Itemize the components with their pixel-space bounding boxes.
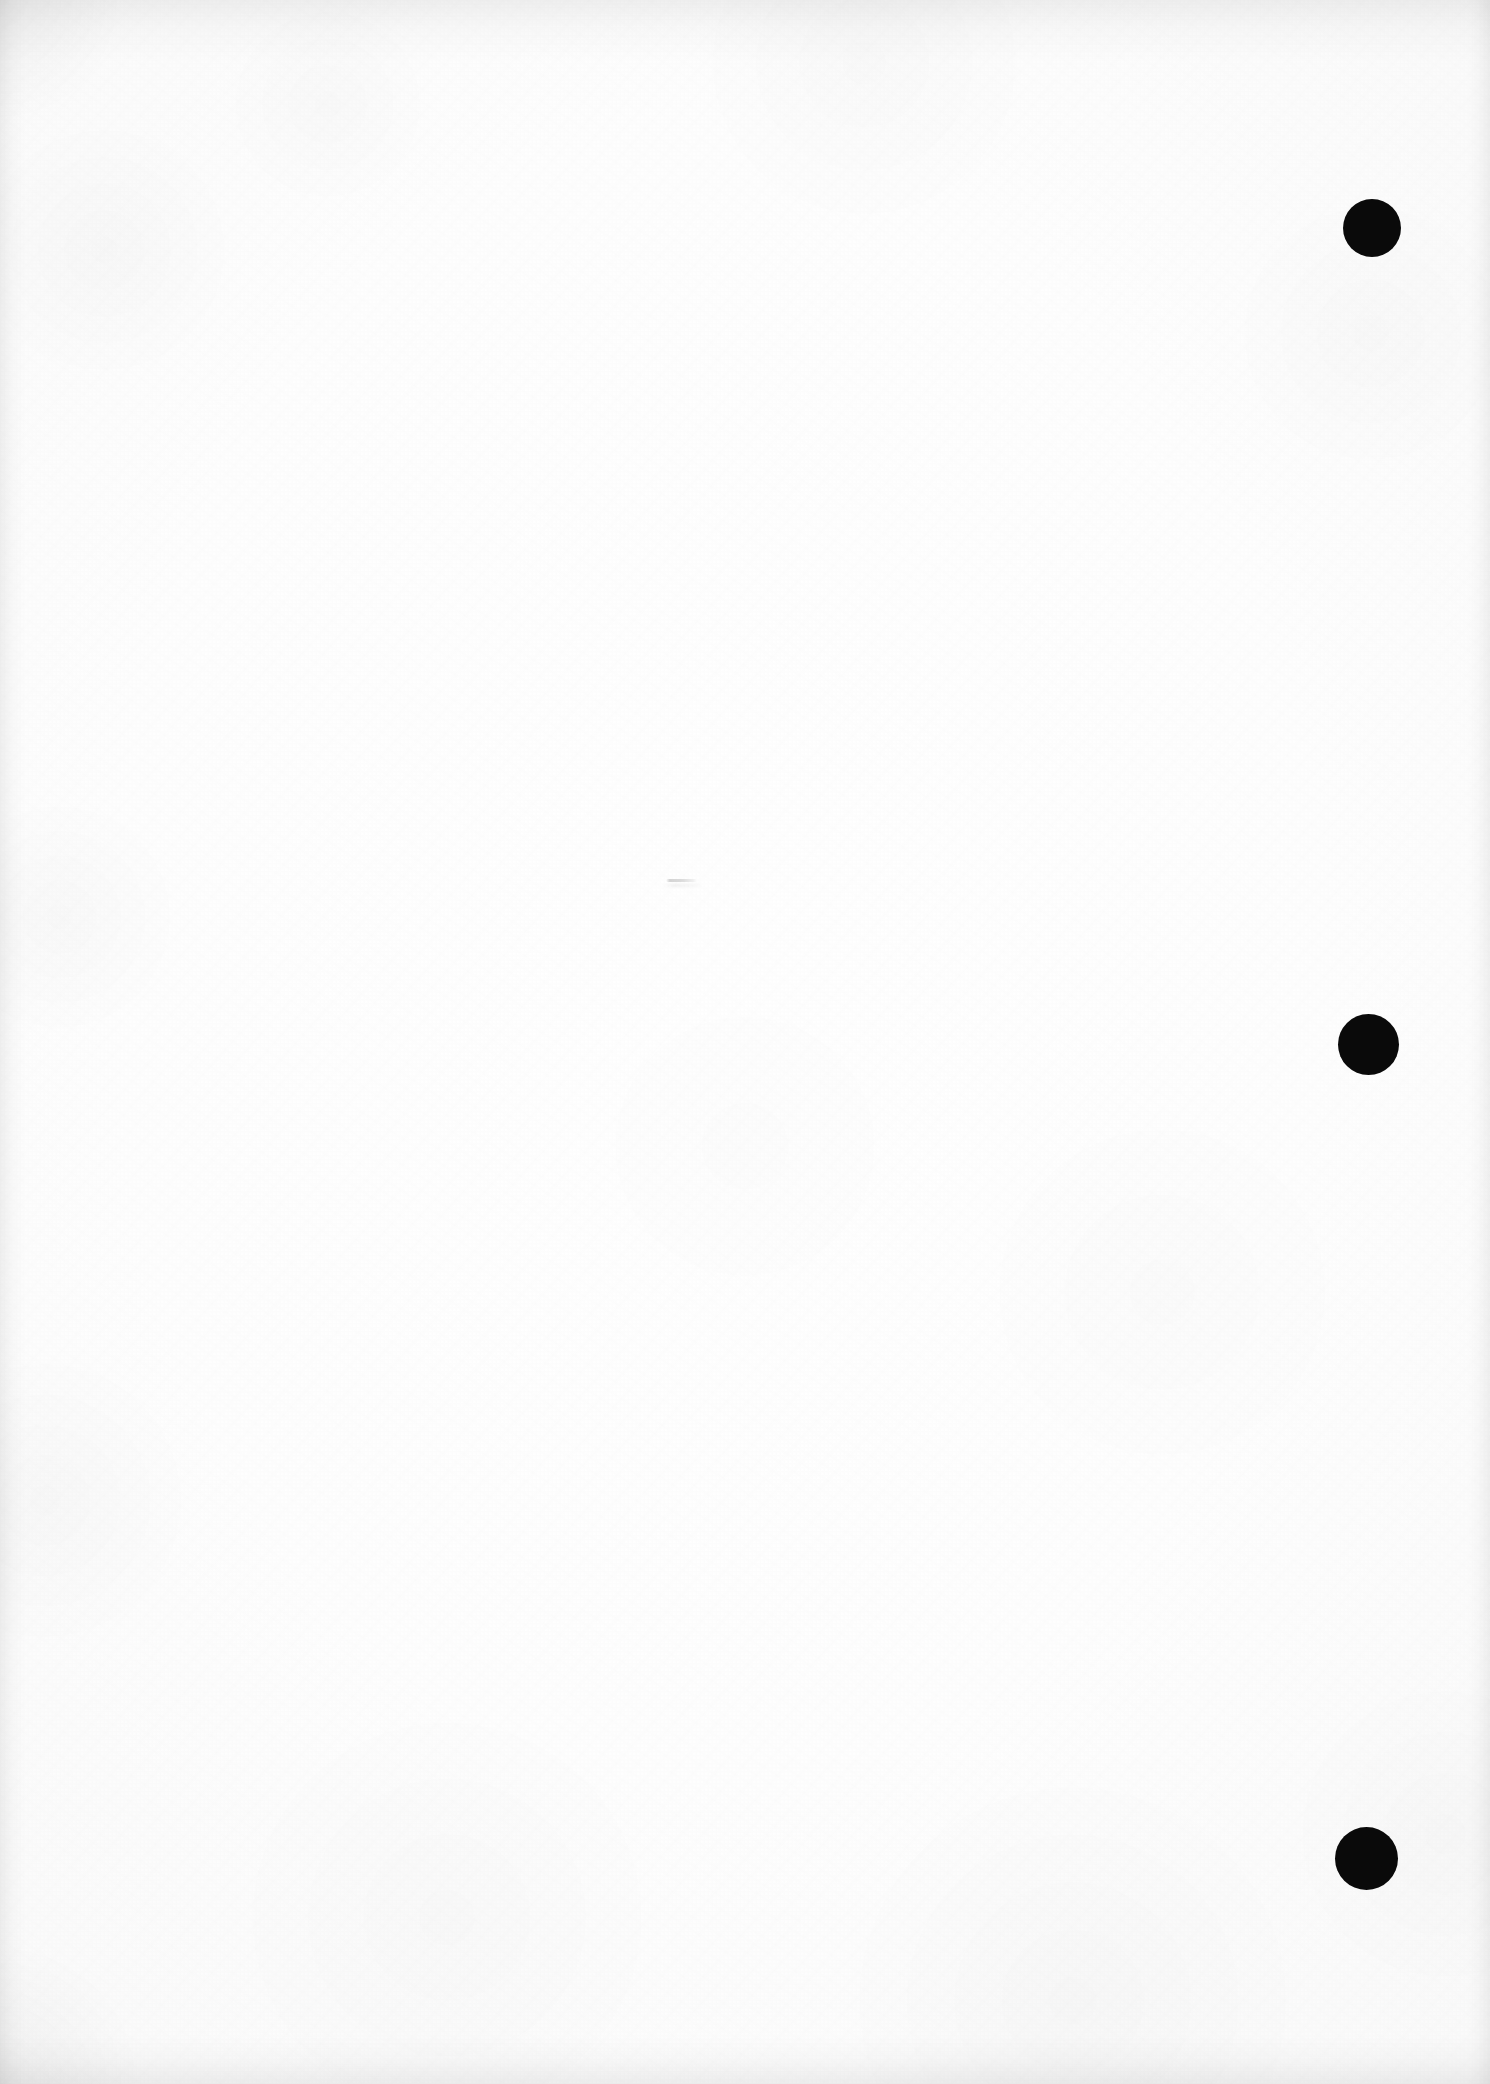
punch-dot-top xyxy=(1343,199,1401,257)
scanned-page xyxy=(0,0,1490,2084)
pencil-smudge-mark xyxy=(666,879,697,882)
punch-dot-bottom xyxy=(1335,1827,1398,1890)
punch-dot-middle xyxy=(1338,1014,1399,1075)
pencil-smudge-echo xyxy=(662,884,703,887)
paper-background xyxy=(0,0,1490,2084)
